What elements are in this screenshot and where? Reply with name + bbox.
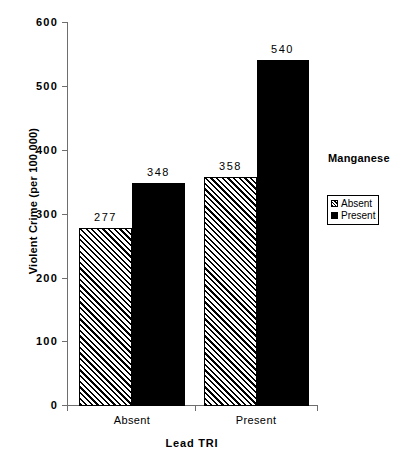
y-tick-label-600: 600 (12, 16, 58, 28)
y-tick-label-200: 200 (12, 272, 58, 284)
bar-value-348: 348 (132, 166, 185, 178)
legend-title: Manganese (328, 152, 390, 164)
bar-value-277: 277 (79, 211, 132, 223)
bar-present-present (257, 60, 309, 406)
legend-item-present: Present (331, 210, 375, 221)
bar-value-540: 540 (256, 43, 309, 55)
x-tick-middle (195, 405, 196, 411)
y-tick-100 (62, 341, 68, 342)
x-tick-left (67, 405, 68, 411)
legend-label-absent: Absent (341, 199, 372, 209)
y-tick-label-100: 100 (12, 335, 58, 347)
bar-value-358: 358 (204, 160, 257, 172)
y-tick-label-0: 0 (12, 399, 58, 411)
x-tick-label-present: Present (216, 414, 296, 426)
legend-swatch-solid-icon (331, 212, 338, 219)
legend-label-present: Present (341, 211, 375, 221)
legend-swatch-hatch-icon (331, 200, 338, 207)
y-tick-600 (62, 22, 68, 23)
legend-item-absent: Absent (331, 198, 375, 209)
bar-present-absent (204, 177, 257, 406)
x-axis-title: Lead TRI (67, 437, 317, 449)
bar-chart: Violent Crime (per 100,000) 600 500 400 … (0, 0, 403, 459)
x-tick-label-absent: Absent (92, 414, 172, 426)
y-tick-label-group: 600 500 400 300 200 100 0 (8, 0, 58, 459)
legend: Absent Present (327, 195, 379, 225)
y-tick-label-300: 300 (12, 208, 58, 220)
y-tick-400 (62, 150, 68, 151)
y-tick-500 (62, 86, 68, 87)
y-tick-200 (62, 278, 68, 279)
x-tick-right (317, 405, 318, 411)
bar-absent-present (132, 183, 185, 406)
y-tick-label-400: 400 (12, 144, 58, 156)
y-tick-300 (62, 214, 68, 215)
bar-absent-absent (79, 228, 132, 406)
y-tick-label-500: 500 (12, 80, 58, 92)
